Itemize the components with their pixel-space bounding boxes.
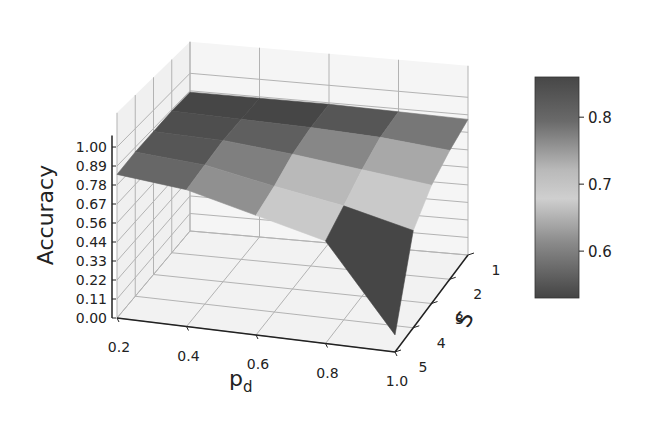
z-axis-title: Accuracy <box>33 165 58 265</box>
z-tick-label: 0.00 <box>76 310 107 326</box>
x-tick-label: 0.8 <box>316 365 338 381</box>
z-tick-label: 0.22 <box>76 272 107 288</box>
y-tick-label: 4 <box>437 335 446 351</box>
colorbar: 0.60.70.8 <box>535 77 612 298</box>
surface-plot-3d: 0.000.110.220.330.440.560.670.780.891.00… <box>0 0 651 430</box>
colorbar-tick-label: 0.7 <box>588 176 612 194</box>
z-tick-label: 0.33 <box>76 253 107 269</box>
x-tick-label: 1.0 <box>386 373 408 389</box>
y-tick-label: 5 <box>419 359 428 375</box>
colorbar-tick-label: 0.8 <box>588 109 612 127</box>
z-tick-label: 0.67 <box>76 196 107 212</box>
x-tick-label: 0.2 <box>108 339 130 355</box>
z-tick-label: 0.89 <box>76 158 107 174</box>
z-tick-label: 0.56 <box>76 215 107 231</box>
x-axis-title-subscript: d <box>243 378 253 396</box>
y-axis-title: S <box>450 307 479 332</box>
x-tick-label: 0.4 <box>177 348 199 364</box>
x-axis-title-main: p <box>229 366 243 391</box>
colorbar-gradient <box>535 77 579 298</box>
x-tick-label: 0.6 <box>247 356 269 372</box>
z-tick-label: 0.44 <box>76 234 107 250</box>
z-tick-label: 0.11 <box>76 291 107 307</box>
z-tick-label: 1.00 <box>76 139 107 155</box>
colorbar-tick-label: 0.6 <box>588 243 612 261</box>
y-tick-label: 1 <box>492 262 501 278</box>
y-tick-label: 2 <box>473 286 482 302</box>
z-tick-label: 0.78 <box>76 177 107 193</box>
